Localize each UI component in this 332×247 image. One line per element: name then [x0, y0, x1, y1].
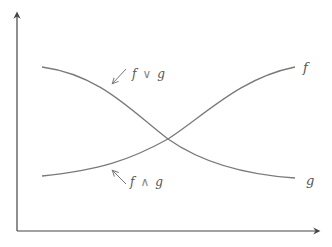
curve-f [42, 67, 295, 176]
join-label: f ∨ g [131, 67, 165, 81]
meet-arrow-icon [113, 171, 126, 184]
lattice-diagram: f g f ∨ g f ∧ g [0, 0, 332, 247]
meet-label: f ∧ g [129, 175, 163, 189]
curve-g [42, 67, 295, 178]
label-f: f [302, 60, 310, 75]
join-arrow-icon [113, 69, 126, 83]
label-g: g [306, 173, 314, 188]
